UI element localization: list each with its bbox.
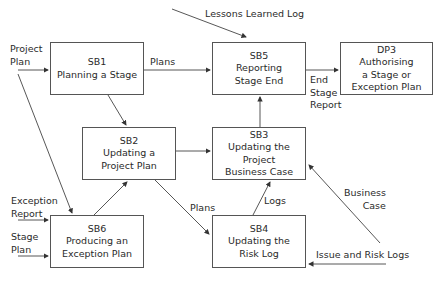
label-project-plan: Project Plan xyxy=(10,43,43,68)
label-plans-mid: Plans xyxy=(190,202,215,215)
label-line: Case xyxy=(344,200,386,213)
process-sb5: SB5 Reporting Stage End xyxy=(212,42,306,95)
label-lessons-learned-log: Lessons Learned Log xyxy=(205,8,304,21)
process-title-line: Reporting xyxy=(236,62,282,75)
process-sb4: SB4 Updating the Risk Log xyxy=(212,215,306,268)
label-line: Plan xyxy=(10,56,43,69)
label-line: Exception xyxy=(11,195,58,208)
label-line: Report xyxy=(310,99,342,112)
process-sb2: SB2 Updating a Project Plan xyxy=(82,127,176,180)
process-title-line: Stage End xyxy=(235,75,284,88)
process-title-line: Project Plan xyxy=(101,160,157,173)
process-title-line: Business Case xyxy=(225,166,293,179)
process-title-line: Producing an xyxy=(66,235,128,248)
process-dp3: DP3 Authorising a Stage or Exception Pla… xyxy=(340,42,433,95)
label-line: End xyxy=(310,74,342,87)
process-title-line: Exception Plan xyxy=(62,248,132,261)
process-title-line: Updating the xyxy=(228,141,290,154)
process-id: SB4 xyxy=(250,223,269,236)
label-plans-top: Plans xyxy=(150,56,175,69)
process-id: SB5 xyxy=(250,50,269,63)
process-sb1: SB1 Planning a Stage xyxy=(50,42,144,95)
label-line: Project xyxy=(10,43,43,56)
label-stage-plan: Stage Plan xyxy=(11,231,38,256)
process-id: DP3 xyxy=(377,44,396,57)
process-title-line: Exception Plan xyxy=(352,81,422,94)
process-title-line: Project xyxy=(243,154,276,167)
process-id: SB3 xyxy=(250,129,269,142)
label-line: Stage xyxy=(310,87,342,100)
label-line: Report xyxy=(11,208,58,221)
process-title-line: Authorising xyxy=(359,56,413,69)
process-title-line: Updating the xyxy=(228,235,290,248)
label-exception-report: Exception Report xyxy=(11,195,58,220)
label-line: Business xyxy=(344,187,386,200)
label-line: Plan xyxy=(11,244,38,257)
process-title-line: a Stage or xyxy=(362,69,411,82)
label-end-stage-report: End Stage Report xyxy=(310,74,342,112)
process-id: SB1 xyxy=(88,56,107,69)
process-id: SB2 xyxy=(120,135,139,148)
process-title-line: Risk Log xyxy=(239,248,279,261)
label-logs: Logs xyxy=(264,195,286,208)
process-title: Planning a Stage xyxy=(57,69,137,82)
label-business-case: Business Case xyxy=(344,187,386,212)
process-sb3: SB3 Updating the Project Business Case xyxy=(212,127,306,180)
process-title-line: Updating a xyxy=(103,147,155,160)
process-id: SB6 xyxy=(88,223,107,236)
process-sb6: SB6 Producing an Exception Plan xyxy=(50,215,144,268)
label-line: Stage xyxy=(11,231,38,244)
label-issue-risk-logs: Issue and Risk Logs xyxy=(316,249,409,262)
